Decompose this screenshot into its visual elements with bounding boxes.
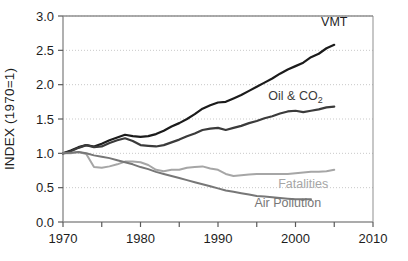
chart-figure: 0.00.51.01.52.02.53.0 197019801990200020… [0,0,408,261]
x-tick-label: 1990 [204,231,233,246]
y-tick-label: 2.0 [36,77,54,92]
line-chart: 0.00.51.01.52.02.53.0 197019801990200020… [0,0,408,261]
x-tick-label: 1980 [126,231,155,246]
y-axis-ticks [58,16,63,222]
x-tick-label: 1970 [49,231,78,246]
series-label-oil-co2: Oil & CO2 [268,89,322,105]
series-label-subscript: 2 [318,95,323,105]
y-tick-label: 3.0 [36,9,54,24]
y-tick-label: 1.0 [36,146,54,161]
y-axis-title: INDEX (1970=1) [2,68,17,170]
series-line-fatalities [63,152,334,176]
y-tick-label: 1.5 [36,112,54,127]
y-axis-tick-labels: 0.00.51.01.52.02.53.0 [36,9,54,230]
series-line-air-pollution [63,152,311,199]
series-line-oil-co2 [63,107,334,154]
series-label-air-pollution: Air Pollution [254,196,321,210]
y-tick-label: 2.5 [36,43,54,58]
y-axis-title-text: INDEX (1970=1) [2,68,17,170]
x-tick-label: 2000 [281,231,310,246]
series-label-fatalities: Fatalities [278,177,328,191]
plot-frame [63,16,373,222]
x-tick-label: 2010 [359,231,388,246]
x-axis-tick-labels: 19701980199020002010 [49,231,388,246]
series-label-vmt: VMT [321,15,348,29]
y-tick-label: 0.5 [36,180,54,195]
x-axis-ticks [63,222,373,227]
y-tick-label: 0.0 [36,215,54,230]
